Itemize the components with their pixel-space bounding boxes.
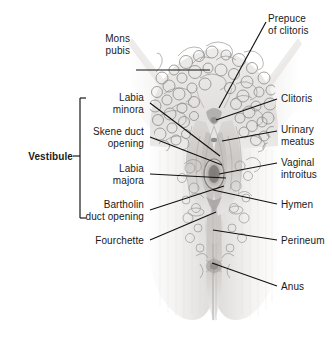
label-perineum-line-1: Perineum [281,235,325,247]
label-skene-duct-opening: Skene ductopening [93,126,144,149]
leader-urinary-meatus [222,131,277,141]
leader-bartholin-duct [150,186,224,210]
label-labia-majora-line-1: Labia [113,163,144,175]
label-hymen-line-1: Hymen [281,199,313,211]
leader-hymen [213,190,277,204]
leader-labia-majora [150,174,226,178]
label-vaginal-introitus: Vaginalintroitus [281,157,317,180]
label-bartholin-duct-opening-line-1: Bartholin [86,199,144,211]
label-labia-minora: Labiaminora [113,92,144,115]
leader-vaginal-introitus [219,163,277,174]
label-labia-minora-line-2: minora [113,104,144,116]
label-clitoris: Clitoris [281,93,312,105]
label-fourchette: Fourchette [95,235,144,247]
label-urinary-meatus-line-1: Urinary [281,124,314,136]
label-prepuce-of-clitoris-line-1: Prepuce [268,13,309,25]
label-anus: Anus [281,281,304,293]
label-vestibule-line-1: Vestibule [28,151,73,163]
label-clitoris-line-1: Clitoris [281,93,312,105]
label-prepuce-of-clitoris: Prepuceof clitoris [268,13,309,36]
label-vaginal-introitus-line-2: introitus [281,169,317,181]
label-hymen: Hymen [281,199,313,211]
label-mons-pubis: Monspubis [105,33,130,56]
label-mons-pubis-line-1: Mons [105,33,130,45]
label-urinary-meatus: Urinarymeatus [281,124,314,147]
label-skene-duct-opening-line-1: Skene duct [93,126,144,138]
label-bartholin-duct-opening: Bartholinduct opening [86,199,144,222]
label-labia-majora-line-2: majora [113,175,144,187]
leader-labia-minora [150,103,220,156]
leader-clitoris [216,99,277,120]
label-urinary-meatus-line-2: meatus [281,136,314,148]
label-anus-line-1: Anus [281,281,304,293]
label-perineum: Perineum [281,235,325,247]
label-mons-pubis-line-2: pubis [105,45,130,57]
label-labia-minora-line-1: Labia [113,92,144,104]
leader-skene-duct-opening [150,137,222,165]
leader-prepuce-of-clitoris [219,22,266,108]
label-vestibule: Vestibule [28,151,73,163]
label-fourchette-line-1: Fourchette [95,235,144,247]
label-labia-majora: Labiamajora [113,163,144,186]
label-bartholin-duct-opening-line-2: duct opening [86,211,144,223]
label-skene-duct-opening-line-2: opening [93,138,144,150]
leader-perineum [213,230,277,240]
leader-fourchette [150,212,216,240]
figure-canvas: MonspubisLabiaminoraSkene ductopeningLab… [0,0,332,338]
label-vaginal-introitus-line-1: Vaginal [281,157,317,169]
leader-anus [212,263,277,286]
label-prepuce-of-clitoris-line-2: of clitoris [268,25,309,37]
